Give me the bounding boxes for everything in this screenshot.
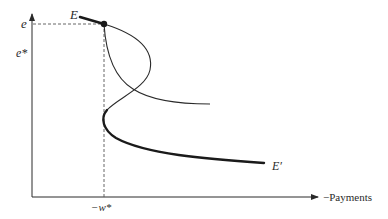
- diagram-canvas: [0, 0, 388, 219]
- x-axis-label: −Payments: [323, 192, 372, 203]
- thick-path-to-E: [80, 17, 104, 24]
- diagram: e e* E E′ −w* −Payments: [0, 0, 388, 219]
- curve-falling: [104, 24, 210, 104]
- point-label-E: E: [70, 8, 78, 21]
- thick-path-to-E-prime: [103, 110, 264, 163]
- point-label-E-prime: E′: [272, 160, 282, 172]
- curve-bulging-right: [104, 24, 151, 110]
- y-tick-label-e-star: e*: [16, 47, 27, 59]
- x-tick-label-w-star: −w*: [91, 202, 111, 213]
- point-E-marker: [101, 21, 107, 27]
- y-tick-label-e: e: [21, 17, 27, 30]
